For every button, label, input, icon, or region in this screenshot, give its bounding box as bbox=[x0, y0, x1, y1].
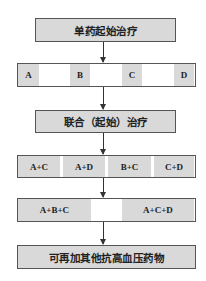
arrow-down-icon bbox=[103, 133, 104, 154]
dual-drug-row: A+C A+D B+C C+D bbox=[17, 155, 196, 178]
drug-label: C bbox=[129, 70, 136, 80]
add-other-drugs-label: 可再加其他抗高血压药物 bbox=[49, 250, 165, 265]
combo-label: A+D bbox=[75, 162, 93, 172]
single-drug-row: A B C D bbox=[17, 63, 196, 87]
arrow-down-icon bbox=[103, 222, 104, 244]
drug-label: D bbox=[181, 70, 188, 80]
monotherapy-label: 单药起始治疗 bbox=[74, 23, 137, 38]
drug-label: B bbox=[77, 70, 83, 80]
combo-cell-cd: C+D bbox=[154, 156, 194, 177]
monotherapy-start-box: 单药起始治疗 bbox=[35, 18, 176, 42]
combination-label: 联合（起始）治疗 bbox=[64, 114, 148, 129]
combo-cell-ac: A+C bbox=[18, 156, 60, 177]
arrow-down-icon bbox=[103, 42, 104, 62]
add-other-drugs-box: 可再加其他抗高血压药物 bbox=[17, 245, 196, 269]
combo-cell-bc: B+C bbox=[108, 156, 151, 177]
drug-cell-a: A bbox=[18, 64, 39, 86]
arrow-down-icon bbox=[103, 178, 104, 197]
triple-cell-acd: A+C+D bbox=[122, 199, 194, 221]
combination-start-box: 联合（起始）治疗 bbox=[35, 110, 176, 133]
drug-cell-b: B bbox=[70, 64, 90, 86]
combo-cell-ad: A+D bbox=[63, 156, 105, 177]
drug-cell-c: C bbox=[122, 64, 142, 86]
triple-cell-abc: A+B+C bbox=[18, 199, 91, 221]
arrow-down-icon bbox=[103, 87, 104, 109]
combo-label: C+D bbox=[165, 162, 183, 172]
drug-label: A bbox=[25, 70, 32, 80]
triple-label: A+C+D bbox=[143, 205, 173, 215]
triple-drug-row: A+B+C A+C+D bbox=[17, 198, 196, 222]
combo-label: A+C bbox=[30, 162, 48, 172]
triple-label: A+B+C bbox=[40, 205, 69, 215]
drug-cell-d: D bbox=[174, 64, 194, 86]
combo-label: B+C bbox=[121, 162, 139, 172]
